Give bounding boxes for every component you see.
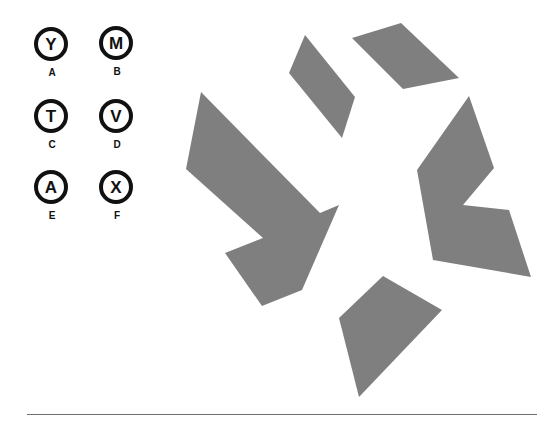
option-label: D bbox=[96, 139, 138, 150]
option-letter: V bbox=[110, 108, 121, 125]
option-letter: X bbox=[110, 179, 121, 196]
option-letter: M bbox=[109, 35, 123, 52]
option-letter: Y bbox=[45, 36, 56, 53]
circle-icon: T bbox=[34, 99, 68, 133]
option-label: F bbox=[96, 210, 138, 221]
option-e[interactable]: A E bbox=[31, 170, 71, 226]
option-c[interactable]: T C bbox=[31, 99, 71, 155]
parallelogram-shape-upper bbox=[289, 35, 355, 138]
option-label: A bbox=[31, 67, 73, 78]
option-letter: A bbox=[45, 179, 57, 196]
puzzle-figure bbox=[0, 0, 559, 424]
option-label: C bbox=[31, 139, 73, 150]
quad-shape-bottom bbox=[339, 276, 442, 397]
arrow-shape-left bbox=[186, 92, 339, 306]
circle-icon: X bbox=[99, 170, 133, 204]
circle-icon: M bbox=[99, 26, 133, 60]
option-a[interactable]: Y A bbox=[31, 27, 71, 83]
circle-icon: V bbox=[99, 99, 133, 133]
option-letter: T bbox=[46, 108, 56, 125]
option-f[interactable]: X F bbox=[96, 170, 136, 226]
option-label: E bbox=[31, 210, 73, 221]
parallelogram-shape-top bbox=[352, 23, 459, 89]
circle-icon: Y bbox=[34, 27, 68, 61]
option-b[interactable]: M B bbox=[96, 26, 136, 82]
option-label: B bbox=[96, 66, 138, 77]
arrow-shape-right bbox=[417, 96, 531, 277]
circle-icon: A bbox=[34, 170, 68, 204]
divider bbox=[27, 414, 537, 415]
option-d[interactable]: V D bbox=[96, 99, 136, 155]
